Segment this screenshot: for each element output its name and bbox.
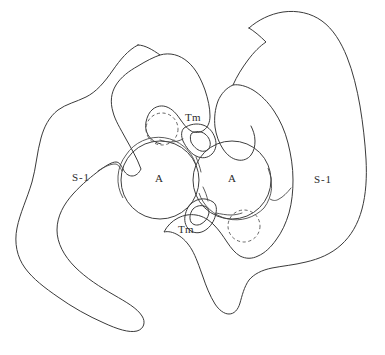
tropomyosin-top-group (160, 124, 216, 172)
myosin-s1-right-arm-outline (215, 85, 255, 160)
tropomyosin-bottom-stalk (216, 213, 242, 215)
myosin-s1-left-group (16, 45, 160, 332)
tropomyosin-top-outer (182, 124, 216, 158)
myosin-s1-right-inner-notch (270, 188, 291, 201)
myosin-s1-left-outline (16, 45, 160, 332)
tropomyosin-top-inner (190, 132, 210, 152)
label-s1-right: S-1 (314, 173, 332, 185)
label-tm-top: Tm (185, 111, 201, 123)
label-actin-left: A (155, 172, 163, 184)
myosin-s1-right-arm-group (215, 85, 255, 160)
label-actin-right: A (228, 172, 236, 184)
myosin-s1-right-outline (164, 11, 366, 314)
myosin-s1-left-inner-notch (98, 164, 122, 171)
figure-canvas: S-1 S-1 A A Tm Tm (0, 0, 385, 355)
myosin-s1-right-group (164, 11, 366, 314)
label-tm-bottom: Tm (178, 223, 194, 235)
label-s1-left: S-1 (72, 171, 90, 183)
